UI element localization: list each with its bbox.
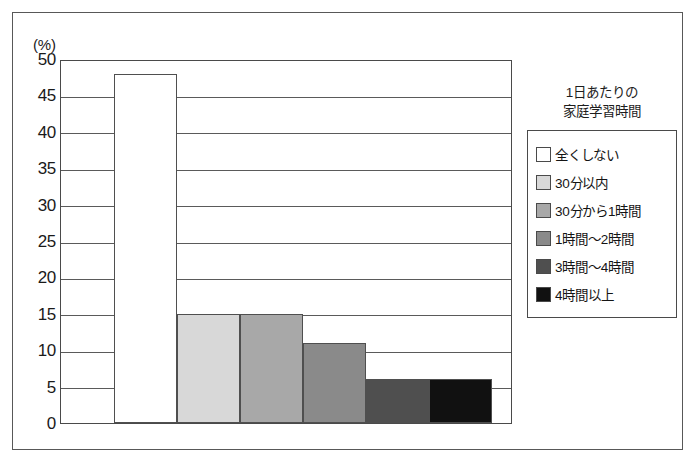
y-axis-tick-label: 30 bbox=[16, 196, 56, 216]
legend-swatch-icon bbox=[536, 147, 551, 162]
y-axis-tick-label: 15 bbox=[16, 305, 56, 325]
y-axis-tick-label: 10 bbox=[16, 341, 56, 361]
bar bbox=[177, 314, 240, 423]
y-axis-tick-label: 5 bbox=[16, 378, 56, 398]
legend-item-label: 30分以内 bbox=[555, 172, 608, 192]
bar bbox=[303, 343, 366, 423]
y-axis-tick-label: 40 bbox=[16, 123, 56, 143]
legend-item-label: 全くしない bbox=[555, 144, 619, 164]
legend: 1日あたりの 家庭学習時間 全くしない30分以内30分から1時間1時間〜2時間3… bbox=[527, 83, 677, 318]
legend-item-label: 1時間〜2時間 bbox=[555, 228, 634, 248]
y-axis-tick-label: 50 bbox=[16, 50, 56, 70]
legend-swatch-icon bbox=[536, 259, 551, 274]
bar bbox=[429, 379, 492, 423]
legend-item-label: 3時間〜4時間 bbox=[555, 256, 634, 276]
legend-item-label: 4時間以上 bbox=[555, 284, 614, 304]
legend-item: 1時間〜2時間 bbox=[536, 224, 669, 252]
bar bbox=[240, 314, 303, 423]
legend-title-line-1: 1日あたりの bbox=[527, 83, 677, 102]
legend-title: 1日あたりの 家庭学習時間 bbox=[527, 83, 677, 121]
bar bbox=[114, 74, 177, 423]
legend-item: 4時間以上 bbox=[536, 280, 669, 308]
legend-item: 30分から1時間 bbox=[536, 196, 669, 224]
bar bbox=[366, 379, 429, 423]
legend-swatch-icon bbox=[536, 175, 551, 190]
plot-area bbox=[60, 60, 512, 424]
legend-swatch-icon bbox=[536, 231, 551, 246]
y-axis: 50454035302520151050 bbox=[13, 60, 56, 424]
legend-title-line-2: 家庭学習時間 bbox=[527, 102, 677, 121]
y-axis-tick-label: 45 bbox=[16, 86, 56, 106]
y-axis-tick-label: 35 bbox=[16, 159, 56, 179]
y-axis-tick-label: 25 bbox=[16, 232, 56, 252]
legend-box: 全くしない30分以内30分から1時間1時間〜2時間3時間〜4時間4時間以上 bbox=[527, 130, 677, 318]
legend-item: 全くしない bbox=[536, 140, 669, 168]
legend-item: 3時間〜4時間 bbox=[536, 252, 669, 280]
bar-series bbox=[61, 61, 511, 423]
legend-swatch-icon bbox=[536, 287, 551, 302]
y-axis-tick-label: 0 bbox=[16, 414, 56, 434]
legend-swatch-icon bbox=[536, 203, 551, 218]
y-axis-tick-label: 20 bbox=[16, 268, 56, 288]
figure-frame: (%) 50454035302520151050 1日あたりの 家庭学習時間 全… bbox=[12, 12, 683, 450]
legend-item-label: 30分から1時間 bbox=[555, 200, 641, 220]
legend-item: 30分以内 bbox=[536, 168, 669, 196]
